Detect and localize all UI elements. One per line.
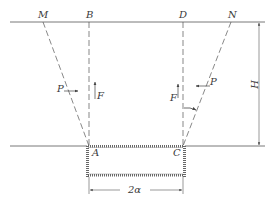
label-A: A bbox=[91, 147, 99, 158]
slip-line-MA bbox=[43, 22, 89, 146]
label-B: B bbox=[85, 9, 93, 20]
label-F-left: F bbox=[96, 90, 105, 101]
label-C: C bbox=[173, 147, 181, 158]
label-P-right: P bbox=[209, 76, 217, 87]
label-D: D bbox=[178, 9, 187, 20]
label-H: H bbox=[249, 79, 260, 89]
trench-diagram: M B D N A C P F F P H 2α bbox=[0, 0, 270, 208]
label-F-right: F bbox=[169, 92, 178, 103]
label-N: N bbox=[227, 9, 238, 20]
label-2alpha: 2α bbox=[127, 184, 141, 195]
slip-line-NC bbox=[183, 22, 231, 146]
angle-arc bbox=[184, 108, 196, 110]
label-P-left: P bbox=[56, 83, 64, 94]
trench-box bbox=[86, 145, 186, 177]
label-M: M bbox=[37, 9, 49, 20]
